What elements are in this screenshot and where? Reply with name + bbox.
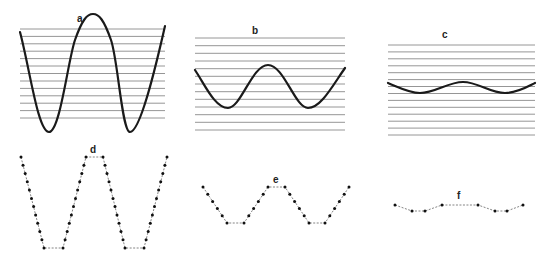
panel-b-wave xyxy=(195,65,345,108)
panel-c: c xyxy=(388,29,535,135)
panel-c-grid-lines xyxy=(388,45,535,135)
panel-e-connector xyxy=(203,187,349,223)
panel-f-label: f xyxy=(457,190,461,201)
panel-d-label: d xyxy=(90,144,96,155)
panel-a-grid-lines xyxy=(20,29,165,118)
panel-a-label: a xyxy=(77,13,83,24)
panel-b-grid-lines xyxy=(195,38,345,130)
panel-e-label: e xyxy=(273,174,279,185)
wave-quantization-diagram: a b xyxy=(0,0,549,259)
panel-e: e xyxy=(202,174,351,225)
panel-c-label: c xyxy=(442,29,448,40)
panel-d: d xyxy=(20,144,169,250)
panel-d-connector xyxy=(21,157,167,248)
panel-b-label: b xyxy=(252,25,258,36)
panel-b: b xyxy=(195,25,345,130)
panel-f-connector xyxy=(395,205,523,211)
panel-f: f xyxy=(394,190,525,213)
panel-c-wave xyxy=(388,82,535,93)
panel-a: a xyxy=(20,13,165,132)
panel-a-wave xyxy=(20,14,165,132)
panel-e-dots xyxy=(202,186,351,225)
panel-d-dots xyxy=(20,156,169,250)
